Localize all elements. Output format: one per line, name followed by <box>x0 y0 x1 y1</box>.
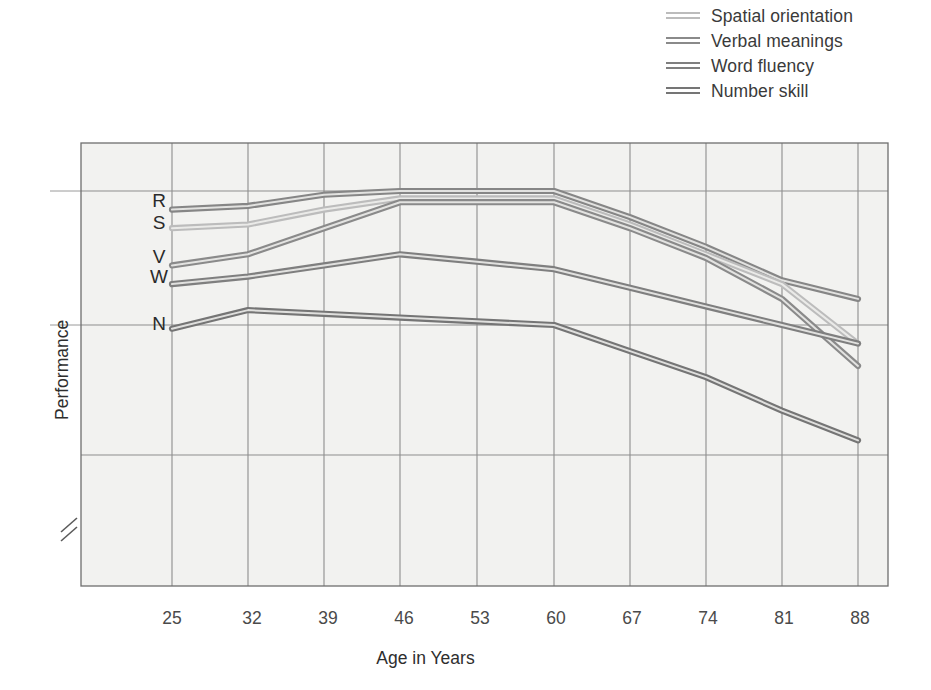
y-series-label-V: V <box>148 246 170 268</box>
x-tick-74: 74 <box>685 608 731 629</box>
x-tick-39: 39 <box>305 608 351 629</box>
x-tick-46: 46 <box>381 608 427 629</box>
chart-canvas <box>0 0 931 690</box>
y-axis-title: Performance <box>52 320 73 420</box>
x-axis-title-text: Age in Years <box>376 648 474 668</box>
x-tick-88: 88 <box>837 608 883 629</box>
x-tick-53: 53 <box>457 608 503 629</box>
x-tick-32: 32 <box>229 608 275 629</box>
x-tick-25: 25 <box>149 608 195 629</box>
y-series-label-W: W <box>148 266 170 288</box>
y-series-label-N: N <box>148 313 170 335</box>
y-series-label-S: S <box>148 212 170 234</box>
y-axis-break-icon <box>61 518 77 541</box>
x-axis-title: Age in Years <box>0 648 931 669</box>
x-tick-81: 81 <box>761 608 807 629</box>
x-tick-67: 67 <box>609 608 655 629</box>
x-tick-60: 60 <box>533 608 579 629</box>
y-series-label-R: R <box>148 190 170 212</box>
plot-area: R S V W N 25 32 39 46 53 60 67 74 81 88 … <box>0 0 931 690</box>
figure-root: Spatial orientation Verbal meanings Word… <box>0 0 931 690</box>
